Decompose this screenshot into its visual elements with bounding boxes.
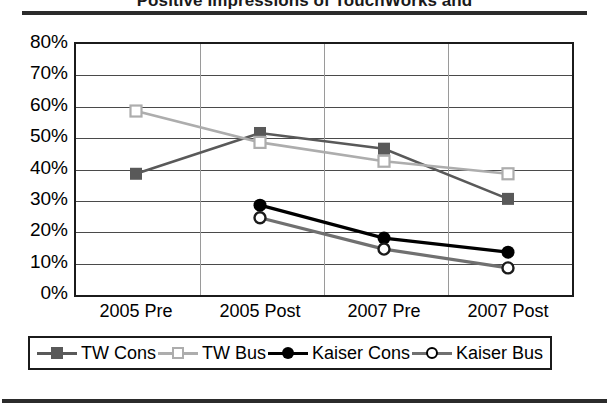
legend-item[interactable]: TW Cons (37, 344, 156, 362)
legend-item-label: Kaiser Cons (312, 344, 410, 362)
data-point-marker (255, 212, 266, 223)
x-axis-tick-label: 2005 Post (198, 300, 322, 322)
y-axis-tick-label: 60% (4, 95, 68, 114)
legend-marker-icon (37, 345, 77, 361)
x-axis-tick-label: 2005 Pre (74, 300, 198, 322)
y-axis: 80%70%60%50%40%30%20%10%0% (0, 42, 68, 293)
data-point-marker (502, 193, 514, 205)
data-point-marker (379, 156, 390, 167)
legend-marker-icon (158, 345, 198, 361)
y-axis-tick-label: 10% (4, 252, 68, 271)
data-point-marker (379, 244, 390, 255)
legend-item[interactable]: Kaiser Bus (412, 344, 543, 362)
legend-item-label: TW Bus (202, 344, 266, 362)
y-axis-tick-label: 50% (4, 126, 68, 145)
x-axis-tick-label: 2007 Post (446, 300, 570, 322)
legend-marker-icon (412, 345, 452, 361)
y-axis-tick-label: 20% (4, 220, 68, 239)
data-point-marker (503, 262, 514, 273)
data-point-marker (255, 137, 266, 148)
y-axis-tick-label: 40% (4, 158, 68, 177)
data-point-marker (130, 168, 142, 180)
y-axis-tick-label: 80% (4, 32, 68, 51)
series-layer (74, 42, 570, 293)
series-line (136, 111, 508, 174)
data-point-marker (378, 143, 390, 155)
y-axis-tick-label: 0% (4, 283, 68, 302)
x-axis: 2005 Pre2005 Post2007 Pre2007 Post (74, 300, 574, 326)
series-line (136, 133, 508, 199)
data-point-marker (503, 168, 514, 179)
y-axis-tick-label: 70% (4, 63, 68, 82)
legend-item[interactable]: Kaiser Cons (268, 344, 410, 362)
legend-marker-icon (268, 345, 308, 361)
line-chart: 80%70%60%50%40%30%20%10%0% 2005 Pre2005 … (0, 18, 609, 338)
data-point-marker (254, 199, 267, 212)
legend-item[interactable]: TW Bus (158, 344, 266, 362)
legend-item-label: TW Cons (81, 344, 156, 362)
x-axis-tick-label: 2007 Pre (322, 300, 446, 322)
data-point-marker (502, 246, 515, 259)
bottom-divider-rule (2, 399, 607, 403)
top-divider-rule (22, 11, 587, 15)
figure-title: Positive Impressions of TouchWorks and (0, 0, 609, 11)
data-point-marker (131, 106, 142, 117)
chart-legend: TW ConsTW BusKaiser ConsKaiser Bus (28, 336, 552, 370)
legend-item-label: Kaiser Bus (456, 344, 543, 362)
y-axis-tick-label: 30% (4, 189, 68, 208)
